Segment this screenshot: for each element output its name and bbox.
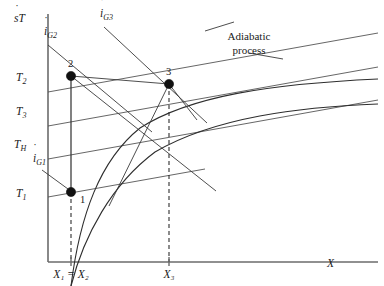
y-tick-label-T3-sub: 3	[21, 111, 26, 120]
y-tick-label-T1-sub: 1	[22, 193, 26, 202]
irreversibility-label-iG2: iG2	[44, 25, 57, 40]
irreversibility-iG1-dot: ̇	[34, 143, 36, 146]
x-tick-label-X1X2: X₁ = X₂	[52, 268, 89, 280]
irreversibility-iG3-sub: G3	[103, 13, 113, 22]
irreversibility-iG3-dot: ̇	[101, 0, 103, 1]
figure-container: sT ̇ X T2 T3 TH T1 X₁ = X₂ X₃	[0, 0, 384, 286]
leader-line-iG2	[48, 45, 152, 132]
y-tick-label-T1: T1	[16, 187, 26, 202]
y-tick-label-T2-sub: 2	[22, 77, 26, 86]
x-tick-labels-group: X₁ = X₂ X₃	[52, 268, 174, 280]
x-tick-label-X3: X₃	[162, 268, 174, 280]
leader-line-iG1	[42, 170, 68, 189]
isotherm-lines-group	[48, 33, 378, 197]
state-point-1-label: 1	[80, 194, 85, 205]
y-tick-label-TH: TH	[14, 138, 27, 153]
adiabatic-annotation-line1: Adiabatic	[228, 30, 271, 42]
irreversibility-labels-group: ̇ iG1 ̇ iG2 ̇ iG3	[33, 0, 113, 167]
y-axis-label-dot-accent: ̇	[16, 4, 18, 7]
leader-line-iG3	[104, 27, 207, 123]
state-point-3-marker[interactable]	[164, 79, 173, 88]
segment-state3-descending	[109, 84, 169, 206]
y-tick-label-T2: T2	[16, 71, 26, 86]
adiabatic-annotation-group: Adiabatic process	[228, 30, 271, 56]
state-point-1-marker[interactable]	[66, 187, 75, 196]
irreversibility-iG1-sub: G1	[36, 158, 46, 167]
irreversibility-label-iG3: iG3	[100, 7, 113, 22]
y-axis-label: sT	[14, 12, 26, 24]
irreversibility-iG2-sub: G2	[47, 31, 57, 40]
isotherm-line-TH	[48, 100, 378, 159]
adiabatic-annotation-line2: process	[233, 44, 266, 56]
state-point-2-label: 2	[68, 58, 73, 69]
segment-state3-short-stub	[169, 84, 197, 120]
irreversibility-iG2-dot: ̇	[45, 16, 47, 19]
projection-lines-group	[71, 84, 169, 262]
adiabatic-curves-group	[71, 79, 378, 286]
y-axis-label-s: sT	[14, 12, 26, 24]
irreversibility-label-iG1: iG1	[33, 152, 46, 167]
state-point-3-label: 3	[166, 66, 171, 77]
adiabatic-curve-upper	[71, 79, 378, 286]
x-axis-label: X	[326, 257, 335, 269]
y-tick-label-TH-sub: H	[19, 144, 27, 153]
state-point-2-marker[interactable]	[66, 71, 75, 80]
y-tick-label-T3: T3	[16, 105, 26, 120]
process-segments-group	[71, 76, 216, 206]
isotherm-line-T2	[48, 33, 378, 92]
y-tick-labels-group: T2 T3 TH T1	[14, 71, 27, 202]
segment-state2-to-state3	[71, 76, 169, 84]
thermodynamic-diagram: sT ̇ X T2 T3 TH T1 X₁ = X₂ X₃	[0, 0, 384, 286]
axes-group	[48, 14, 378, 262]
